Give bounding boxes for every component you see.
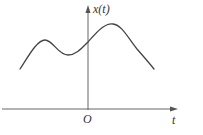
x-axis-label: t — [172, 114, 175, 126]
t-axis-arrow-icon — [170, 107, 178, 112]
origin-label: O — [83, 113, 92, 125]
y-axis-label: x(t) — [93, 3, 110, 15]
signal-curve — [20, 24, 154, 69]
y-axis-arrow-icon — [86, 5, 91, 13]
